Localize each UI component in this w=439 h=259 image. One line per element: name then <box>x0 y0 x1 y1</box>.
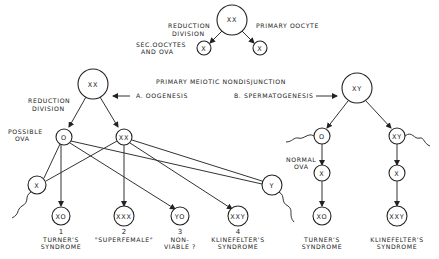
sperm-xy-karyotype: XY <box>392 133 402 141</box>
oogenesis-edge-right <box>100 97 118 127</box>
edge-xx-to-x <box>46 141 117 181</box>
edge-xx-to-y <box>132 140 262 181</box>
outcome-3-label-2: VIABLE ? <box>164 243 196 250</box>
edge-o-to-x <box>44 144 60 178</box>
possible-ova-label-2: OVA <box>15 135 30 142</box>
normal-ova-label-2: OVA <box>294 163 309 170</box>
oogenesis-title: A. OOGENESIS <box>136 92 188 99</box>
oogenesis-edge-left <box>69 97 86 127</box>
sperm-outcome-xo-karyotype: XO <box>317 213 328 221</box>
normal-meiosis-section: XX PRIMARY OOCYTE REDUCTION DIVISION X X… <box>136 5 319 55</box>
sperm-y-tail <box>279 192 294 222</box>
outcome-xo-karyotype: XO <box>56 213 67 221</box>
top-reduction-label-2: DIVISION <box>172 30 205 37</box>
sperm-x-tail <box>12 192 31 218</box>
nondisjunction-diagram: XX PRIMARY OOCYTE REDUCTION DIVISION X X… <box>0 0 439 259</box>
outcome-1-label-2: SYNDROME <box>41 243 81 250</box>
spermatogenesis-edge-right <box>366 101 391 128</box>
outcome-xxx-karyotype: XXX <box>116 213 132 221</box>
oogenesis-reduction-label-1: REDUCTION <box>28 97 70 104</box>
edge-o-to-y <box>71 141 262 184</box>
normal-ovum-right-karyotype: X <box>394 170 399 178</box>
oogenesis-root-karyotype: XX <box>88 81 99 89</box>
spermatogenesis-title: B. SPERMATOGENESIS <box>234 92 314 99</box>
outcome-4-label-1: KLINEFELTER'S <box>211 236 264 243</box>
sperm-outcome-1-label-1: TURNER'S <box>303 236 340 243</box>
sperm-x-karyotype: X <box>34 182 39 190</box>
outcome-2-label-1: "SUPERFEMALE" <box>95 236 153 243</box>
outcome-4-number: 4 <box>236 228 241 236</box>
ovum-o-karyotype: O <box>61 134 67 142</box>
sec-oocytes-label-2: AND OVA <box>141 48 174 55</box>
outcome-3-label-1: NON- <box>171 236 190 243</box>
oogenesis-reduction-label-2: DIVISION <box>32 105 65 112</box>
sperm-y-karyotype: Y <box>269 182 275 190</box>
normal-ovum-left-karyotype: X <box>319 170 324 178</box>
sperm-outcome-2-label-2: SYNDROME <box>377 243 417 250</box>
sperm-outcome-1-label-2: SYNDROME <box>302 243 342 250</box>
outcome-1-label-1: TURNER'S <box>42 236 79 243</box>
sec-oocyte-left-karyotype: X <box>201 45 206 53</box>
outcome-1-number: 1 <box>59 228 63 236</box>
sec-oocyte-right-karyotype: X <box>257 45 262 53</box>
ovum-xx-karyotype: XX <box>119 134 130 142</box>
top-reduction-label-1: REDUCTION <box>168 22 210 29</box>
outcome-xxy-karyotype: XXY <box>230 213 245 221</box>
section-heading: PRIMARY MEIOTIC NONDISJUNCTION <box>156 78 286 86</box>
primary-oocyte-karyotype: XX <box>227 16 238 24</box>
top-edge-left <box>210 31 222 43</box>
outcome-4-label-2: SYNDROME <box>218 243 258 250</box>
outcome-yo-karyotype: YO <box>174 213 185 221</box>
sperm-xy-tail <box>405 134 430 146</box>
normal-ova-label-1: NORMAL <box>286 156 316 163</box>
sperm-outcome-2-label-1: KLINEFELTER'S <box>370 236 423 243</box>
outcome-2-number: 2 <box>122 228 126 236</box>
top-edge-right <box>242 31 254 43</box>
primary-oocyte-label: PRIMARY OOCYTE <box>256 22 319 29</box>
outcome-3-number: 3 <box>178 228 182 236</box>
possible-ova-label-1: POSSIBLE <box>8 128 43 135</box>
sec-oocytes-label-1: SEC.OOCYTES <box>136 41 186 48</box>
edge-to-xxy <box>130 143 232 209</box>
sperm-o-karyotype: O <box>319 133 325 141</box>
spermatogenesis-section: B. SPERMATOGENESIS XY O XY NORMAL OVA X … <box>234 73 430 250</box>
sperm-outcome-xxy-karyotype: XXY <box>389 213 404 221</box>
sperm-o-tail <box>286 135 314 142</box>
spermatogenesis-edge-left <box>327 101 348 128</box>
spermatogenesis-root-karyotype: XY <box>352 85 362 93</box>
